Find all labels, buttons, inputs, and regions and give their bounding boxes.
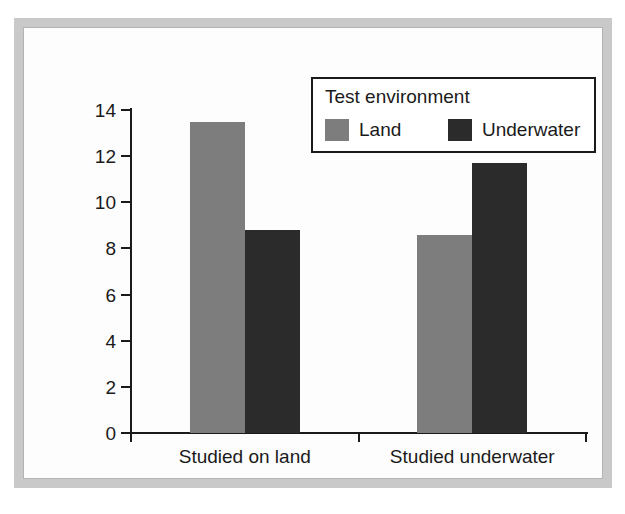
y-axis-tick (121, 386, 131, 388)
legend-swatch-underwater-icon (448, 119, 472, 141)
x-axis-tick (130, 432, 132, 442)
bar-underwater-0 (245, 230, 300, 433)
legend-label-land: Land (359, 119, 401, 141)
bar-underwater-1 (472, 163, 527, 433)
x-axis-group-label: Studied on land (131, 447, 359, 468)
legend-swatch-land-icon (325, 119, 349, 141)
legend-title: Test environment (325, 86, 470, 108)
x-axis-tick (585, 432, 587, 442)
y-axis-tick-label: 6 (86, 286, 116, 305)
y-axis-tick-label: 12 (86, 147, 116, 166)
y-axis-tick (121, 294, 131, 296)
y-axis-tick (121, 155, 131, 157)
y-axis-tick-label: 2 (86, 378, 116, 397)
y-axis-tick (121, 109, 131, 111)
y-axis-tick-label: 0 (86, 424, 116, 443)
legend-item-land: Land (325, 117, 401, 143)
bar-land-1 (417, 235, 472, 433)
legend-item-underwater: Underwater (448, 117, 580, 143)
y-axis-tick-label: 8 (86, 239, 116, 258)
bar-land-0 (190, 122, 245, 433)
y-axis-tick-label: 14 (86, 101, 116, 120)
figure-frame: Mean words recalled 02468101214 Studied … (0, 0, 625, 514)
y-axis-tick-label: 4 (86, 332, 116, 351)
y-axis-tick (121, 201, 131, 203)
y-axis-tick (121, 247, 131, 249)
bar-chart: Mean words recalled 02468101214 Studied … (0, 0, 625, 514)
legend: Test environment Land Underwater (311, 77, 596, 153)
y-axis-tick (121, 340, 131, 342)
x-axis-tick (358, 432, 360, 442)
legend-label-underwater: Underwater (482, 119, 580, 141)
plot-area (131, 110, 586, 433)
x-axis-group-label: Studied underwater (359, 447, 587, 468)
y-axis-tick-label: 10 (86, 193, 116, 212)
